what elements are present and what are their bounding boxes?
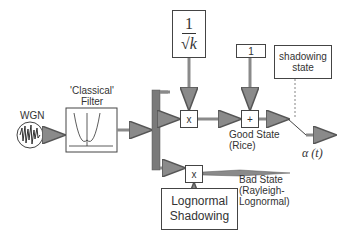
filter-plot-icon bbox=[66, 108, 117, 152]
bad-state-line2: (Rayleigh- bbox=[239, 185, 290, 196]
wgn-label: WGN bbox=[20, 110, 44, 121]
add-block: + bbox=[241, 110, 259, 128]
filter-label: 'Classical' Filter bbox=[66, 85, 118, 107]
shadowing-state-line1: shadowing bbox=[279, 51, 327, 62]
filter-label-line2: Filter bbox=[66, 96, 118, 107]
bad-state-line3: Lognormal) bbox=[239, 196, 290, 207]
lognormal-line1: Lognormal bbox=[171, 194, 228, 209]
good-state-label: Good State (Rice) bbox=[229, 129, 280, 151]
bad-state-line1: Bad State bbox=[239, 174, 290, 185]
multiply-top-block: x bbox=[180, 110, 198, 128]
lognormal-shadowing-block: Lognormal Shadowing bbox=[161, 188, 238, 230]
shadowing-state-block: shadowing state bbox=[274, 45, 332, 79]
filter-label-line1: 'Classical' bbox=[66, 85, 118, 96]
good-state-line1: Good State bbox=[229, 129, 280, 140]
multiply-bottom-block: x bbox=[185, 165, 203, 183]
constant-one-block: 1 bbox=[236, 44, 266, 58]
output-label: α (t) bbox=[302, 148, 323, 159]
scale-numerator: 1 bbox=[182, 15, 196, 34]
scale-denominator: √k bbox=[181, 34, 197, 54]
wgn-noise-icon bbox=[17, 122, 43, 148]
good-state-line2: (Rice) bbox=[229, 140, 280, 151]
scale-factor-block: 1 √k bbox=[172, 10, 206, 58]
shadowing-state-line2: state bbox=[292, 62, 314, 73]
lognormal-line2: Shadowing bbox=[170, 209, 229, 224]
bad-state-label: Bad State (Rayleigh- Lognormal) bbox=[239, 174, 290, 207]
